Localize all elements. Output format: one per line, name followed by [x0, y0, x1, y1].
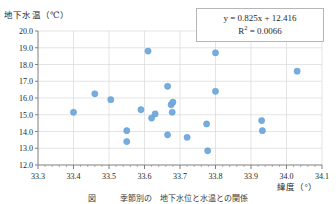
svg-text:33.6: 33.6 — [138, 172, 152, 181]
svg-text:20.0: 20.0 — [19, 27, 33, 36]
svg-text:33.9: 33.9 — [244, 172, 258, 181]
regression-annotation-box: y = 0.825x + 12.416 R2 = 0.0066 — [196, 8, 324, 42]
data-points — [70, 48, 300, 154]
figure-caption: 図 季節別の 地下水位と水温との関係 — [0, 192, 336, 203]
svg-text:19.0: 19.0 — [19, 44, 33, 53]
svg-text:17.0: 17.0 — [19, 77, 33, 86]
svg-text:16.0: 16.0 — [19, 94, 33, 103]
scatter-chart-figure: 地下水温（℃） 12.013.014.015.016.017.018.019.0… — [0, 0, 336, 204]
regression-equation: y = 0.825x + 12.416 — [201, 12, 319, 24]
svg-text:13.0: 13.0 — [19, 144, 33, 153]
r-squared-value: = 0.0066 — [247, 26, 281, 36]
gridlines — [38, 31, 322, 165]
svg-text:12.0: 12.0 — [19, 161, 33, 170]
svg-text:15.0: 15.0 — [19, 111, 33, 120]
svg-text:33.5: 33.5 — [102, 172, 116, 181]
svg-text:33.8: 33.8 — [209, 172, 223, 181]
svg-text:18.0: 18.0 — [19, 61, 33, 70]
svg-text:14.0: 14.0 — [19, 128, 33, 137]
svg-text:33.4: 33.4 — [67, 172, 81, 181]
svg-text:33.7: 33.7 — [173, 172, 187, 181]
svg-text:33.3: 33.3 — [31, 172, 45, 181]
x-axis-title: 緯度（°） — [277, 180, 317, 192]
r-squared-line: R2 = 0.0066 — [201, 24, 319, 37]
